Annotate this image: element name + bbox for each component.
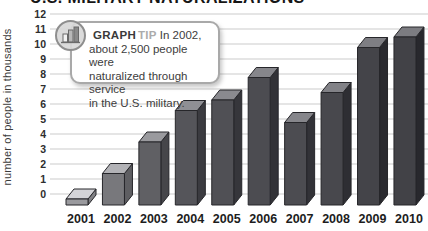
bar-chart-icon bbox=[54, 19, 87, 52]
x-axis-label: 2007 bbox=[280, 212, 320, 226]
y-axis-tick: 6 bbox=[28, 98, 46, 110]
y-axis-tick: 9 bbox=[28, 53, 46, 65]
bar-2007 bbox=[285, 113, 315, 206]
y-axis-tick: 0 bbox=[28, 188, 46, 200]
x-axis-label: 2001 bbox=[61, 212, 101, 226]
x-axis-label: 2010 bbox=[389, 212, 428, 226]
bar-2009 bbox=[358, 38, 388, 206]
military-naturalizations-chart: U.S. MILITARY NATURALIZATIONS number of … bbox=[0, 0, 428, 231]
graph-tip-label-tip: TIP bbox=[138, 29, 157, 41]
x-axis-label: 2002 bbox=[97, 212, 137, 226]
x-axis-label: 2003 bbox=[134, 212, 174, 226]
graph-tip-text-line-3: naturalized through service bbox=[89, 70, 210, 97]
bar-2008 bbox=[321, 83, 351, 206]
graph-tip-text-line-2: about 2,500 people were bbox=[89, 43, 210, 70]
y-axis-tick: 11 bbox=[28, 23, 46, 35]
y-axis-tick: 3 bbox=[28, 143, 46, 155]
bar-2010 bbox=[394, 27, 424, 205]
bar-2002 bbox=[102, 164, 132, 206]
y-axis-tick: 4 bbox=[28, 128, 46, 140]
graph-tip-heading: GRAPHTIPIn 2002, bbox=[93, 29, 210, 43]
x-axis-label: 2004 bbox=[170, 212, 210, 226]
bar-2005 bbox=[212, 90, 242, 205]
y-axis-tick: 8 bbox=[28, 68, 46, 80]
bar-2001 bbox=[66, 189, 96, 205]
x-axis-label: 2006 bbox=[243, 212, 283, 226]
x-axis-label: 2008 bbox=[316, 212, 356, 226]
y-axis-tick: 2 bbox=[28, 158, 46, 170]
y-axis-tick: 10 bbox=[28, 38, 46, 50]
x-axis-label: 2005 bbox=[207, 212, 247, 226]
y-axis-tick: 12 bbox=[28, 8, 46, 20]
bar-2003 bbox=[139, 132, 169, 205]
bar-2004 bbox=[175, 101, 205, 206]
y-axis-tick: 7 bbox=[28, 83, 46, 95]
graph-tip-label-graph: GRAPH bbox=[93, 29, 136, 41]
graph-tip-text-line-1: In 2002, bbox=[160, 29, 202, 41]
x-axis-label: 2009 bbox=[353, 212, 393, 226]
y-axis-tick: 5 bbox=[28, 113, 46, 125]
y-axis-tick: 1 bbox=[28, 173, 46, 185]
graph-tip-callout: GRAPHTIPIn 2002, about 2,500 people were… bbox=[70, 21, 220, 84]
bar-2006 bbox=[248, 68, 278, 206]
graph-tip-text-line-4: in the U.S. military. bbox=[89, 97, 210, 111]
